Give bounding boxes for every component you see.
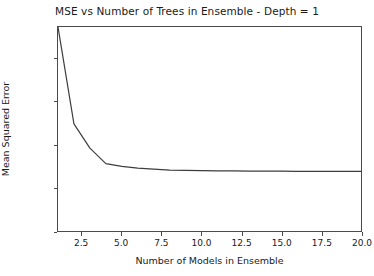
x-tick-mark bbox=[362, 232, 363, 236]
x-tick-mark bbox=[81, 232, 82, 236]
mse-line-series bbox=[58, 27, 361, 231]
x-axis-label: Number of Models in Ensemble bbox=[57, 255, 362, 266]
x-tick-label: 2.5 bbox=[61, 238, 101, 248]
x-tick-mark bbox=[322, 232, 323, 236]
x-tick-label: 7.5 bbox=[141, 238, 181, 248]
x-tick-mark bbox=[242, 232, 243, 236]
y-axis-label: Mean Squared Error bbox=[0, 82, 11, 177]
x-tick-label: 12.5 bbox=[222, 238, 262, 248]
plot-area bbox=[57, 26, 362, 232]
x-tick-mark bbox=[121, 232, 122, 236]
chart-figure: MSE vs Number of Trees in Ensemble - Dep… bbox=[0, 0, 374, 276]
x-tick-label: 5.0 bbox=[101, 238, 141, 248]
x-tick-label: 17.5 bbox=[302, 238, 342, 248]
chart-title: MSE vs Number of Trees in Ensemble - Dep… bbox=[0, 5, 374, 17]
y-axis-label-container: Mean Squared Error bbox=[0, 26, 12, 232]
y-tick-mark bbox=[54, 232, 58, 233]
x-tick-label: 15.0 bbox=[262, 238, 302, 248]
x-tick-mark bbox=[161, 232, 162, 236]
mse-polyline bbox=[58, 27, 361, 171]
x-tick-label: 10.0 bbox=[181, 238, 221, 248]
x-tick-mark bbox=[282, 232, 283, 236]
x-tick-mark bbox=[201, 232, 202, 236]
x-tick-label: 20.0 bbox=[342, 238, 374, 248]
